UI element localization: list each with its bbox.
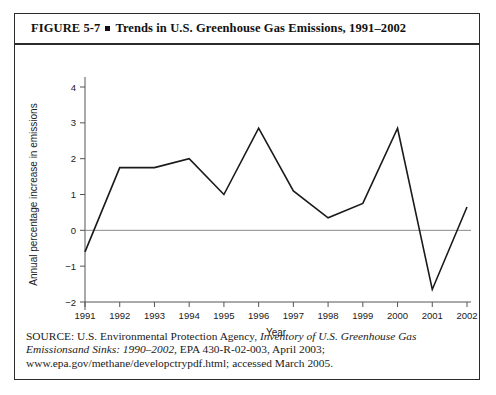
y-tick-label: 4 <box>71 82 76 93</box>
x-tick-label: 2000 <box>387 310 408 321</box>
data-series-line <box>85 128 467 289</box>
x-tick-label: 1998 <box>318 310 339 321</box>
figure-title: FIGURE 5-7Trends in U.S. Greenhouse Gas … <box>31 21 406 36</box>
figure-number: FIGURE 5-7 <box>31 21 100 35</box>
y-axis-title: Annual percentage increase in emissions <box>28 103 39 285</box>
series-polyline <box>85 128 467 289</box>
square-bullet-icon <box>105 26 110 31</box>
x-tick-label: 2002 <box>456 310 477 321</box>
x-tick-label: 1999 <box>352 310 373 321</box>
x-tick-label: 1994 <box>179 310 200 321</box>
x-tick-label: 1997 <box>283 310 304 321</box>
x-tick-label: 1996 <box>248 310 269 321</box>
x-tick-label: 1991 <box>74 310 95 321</box>
y-tick-label: 3 <box>71 117 76 128</box>
source-note: SOURCE: U.S. Environmental Protection Ag… <box>26 330 470 370</box>
x-tick-label: 1993 <box>144 310 165 321</box>
x-tick-label: 1992 <box>109 310 130 321</box>
line-chart: −2−101234 199119921993199419951996199719… <box>15 45 479 339</box>
y-tick-label: 1 <box>71 189 76 200</box>
y-tick-label: −2 <box>65 297 76 308</box>
y-axis: −2−101234 <box>65 77 85 310</box>
source-line2-italic: and Sinks: 1990–2002, <box>72 343 177 355</box>
figure-header: FIGURE 5-7Trends in U.S. Greenhouse Gas … <box>15 14 479 45</box>
chart-plot-region: −2−101234 199119921993199419951996199719… <box>15 45 479 339</box>
x-axis: 1991199219931994199519961997199819992000… <box>74 302 477 321</box>
source-line1-plain: SOURCE: U.S. Environmental Protection Ag… <box>26 330 260 342</box>
y-tick-label: −1 <box>65 261 76 272</box>
figure-title-text: Trends in U.S. Greenhouse Gas Emissions,… <box>115 21 406 35</box>
y-tick-label: 0 <box>71 225 76 236</box>
x-tick-label: 2001 <box>422 310 443 321</box>
figure-container: FIGURE 5-7Trends in U.S. Greenhouse Gas … <box>14 13 480 380</box>
source-line3-plain: .html; accessed March 2005. <box>202 357 333 369</box>
y-tick-label: 2 <box>71 153 76 164</box>
x-tick-label: 1995 <box>213 310 234 321</box>
